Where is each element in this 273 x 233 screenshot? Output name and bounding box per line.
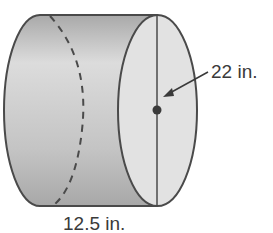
- diameter-label: 22 in.: [211, 62, 257, 81]
- cylinder-diagram: [0, 0, 273, 233]
- center-dot: [153, 106, 162, 115]
- height-label: 12.5 in.: [63, 214, 125, 233]
